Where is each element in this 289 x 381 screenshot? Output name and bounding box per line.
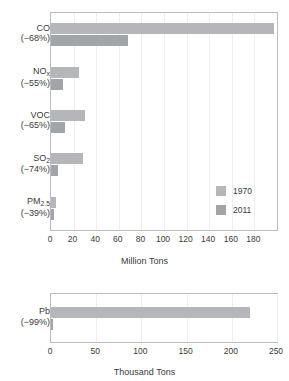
category-subscript: 2	[46, 157, 50, 164]
x-tick-label: 0	[48, 346, 53, 356]
bar-voc-2011	[51, 122, 65, 133]
category-label-voc: VOC(−65%)	[2, 110, 50, 131]
category-name: SO2	[33, 153, 50, 163]
bar-group	[51, 307, 277, 330]
bar-nox-1970	[51, 67, 79, 78]
x-tick-label: 140	[201, 234, 215, 244]
category-label-pm2.5: PM2.5(−39%)	[2, 196, 50, 218]
category-label-so2: SO2(−74%)	[2, 153, 50, 175]
category-name: Pb	[39, 306, 50, 316]
bottom-chart-x-axis-ticks: 050100150200250	[0, 346, 289, 362]
x-tick-label: 250	[269, 346, 283, 356]
lead-thousand-tons-chart: Pb(−99%) 050100150200250 Thousand Tons	[0, 281, 289, 381]
bar-pb-2011	[51, 319, 53, 330]
x-tick-label: 150	[179, 346, 193, 356]
category-change: (−99%)	[2, 317, 50, 328]
category-name: CO	[37, 23, 51, 33]
gridline	[277, 294, 278, 342]
category-name: NOx	[33, 66, 50, 76]
category-name: VOC	[30, 110, 50, 120]
bar-group	[51, 23, 277, 46]
legend-label: 1970	[233, 186, 252, 196]
x-tick-label: 100	[133, 346, 147, 356]
category-change: (−65%)	[2, 120, 50, 131]
category-label-co: CO(−68%)	[2, 23, 50, 44]
x-tick-label: 160	[224, 234, 238, 244]
legend-label: 2011	[233, 205, 251, 215]
category-change: (−39%)	[2, 208, 50, 219]
x-tick-label: 60	[113, 234, 122, 244]
x-tick-label: 180	[246, 234, 260, 244]
chart-legend: 19702011	[216, 186, 278, 224]
emissions-million-tons-chart: CO(−68%)NOx(−55%)VOC(−65%)SO2(−74%)PM2.5…	[0, 0, 289, 275]
bar-pm2.5-1970	[51, 197, 56, 208]
bottom-chart-plot-area	[50, 293, 278, 343]
category-change: (−55%)	[2, 78, 50, 89]
bar-group	[51, 110, 277, 133]
top-chart-x-axis-ticks: 020406080100120140160180	[0, 234, 289, 250]
legend-swatch-2011	[216, 205, 226, 215]
legend-swatch-1970	[216, 186, 226, 196]
x-tick-label: 0	[48, 234, 53, 244]
x-tick-label: 120	[179, 234, 193, 244]
bar-nox-2011	[51, 79, 63, 90]
legend-item-2011: 2011	[216, 205, 278, 215]
category-label-nox: NOx(−55%)	[2, 66, 50, 88]
x-tick-label: 80	[136, 234, 145, 244]
bar-group	[51, 67, 277, 90]
bar-voc-1970	[51, 110, 85, 121]
bar-co-1970	[51, 23, 274, 34]
bottom-chart-x-axis-title: Thousand Tons	[0, 367, 289, 377]
category-change: (−68%)	[2, 33, 50, 44]
bar-pm2.5-2011	[51, 209, 54, 220]
category-subscript: 2.5	[41, 200, 50, 207]
bar-co-2011	[51, 35, 128, 46]
category-change: (−74%)	[2, 164, 50, 175]
category-subscript: x	[47, 70, 50, 77]
bar-so2-1970	[51, 153, 83, 164]
bar-group	[51, 153, 277, 176]
x-tick-label: 50	[90, 346, 99, 356]
x-tick-label: 20	[68, 234, 77, 244]
x-tick-label: 100	[156, 234, 170, 244]
bar-so2-2011	[51, 165, 58, 176]
x-tick-label: 200	[224, 346, 238, 356]
x-tick-label: 40	[90, 234, 99, 244]
category-name: PM2.5	[27, 196, 50, 206]
category-label-pb: Pb(−99%)	[2, 306, 50, 327]
bar-pb-1970	[51, 307, 250, 318]
legend-item-1970: 1970	[216, 186, 278, 196]
top-chart-x-axis-title: Million Tons	[0, 256, 289, 266]
